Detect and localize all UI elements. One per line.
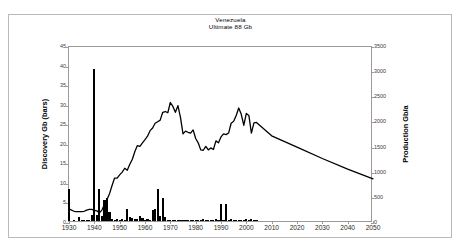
x-tick-label: 2030 (315, 225, 330, 232)
x-tick-label: 2010 (264, 225, 279, 232)
x-tick-label: 2000 (239, 225, 254, 232)
y-axis-right-title: Production Gb/a (399, 46, 411, 222)
chart-title-block: Venezuela Ultimate 88 Gb (0, 16, 461, 31)
x-tick-label: 1990 (214, 225, 229, 232)
x-tick-label: 1930 (62, 225, 77, 232)
plot-inner: 051015202530354045 050010001500200025003… (69, 47, 371, 221)
y-left-tick-label: 15 (60, 161, 66, 166)
production-curve (69, 47, 373, 223)
x-tick-label: 1940 (87, 225, 102, 232)
y-right-tick-label: 1000 (374, 170, 386, 175)
y-left-tick-label: 40 (60, 64, 66, 69)
y-left-tick-label: 25 (60, 122, 66, 127)
x-tick-label: 1960 (138, 225, 153, 232)
plot-area: 051015202530354045 050010001500200025003… (68, 46, 372, 222)
x-tick-label: 2050 (366, 225, 381, 232)
y-left-tick-label: 20 (60, 142, 66, 147)
y-right-tick-label: 2500 (374, 94, 386, 99)
y-left-tick-label: 10 (60, 181, 66, 186)
y-right-tick-label: 3500 (374, 44, 386, 49)
y-left-tick-label: 5 (63, 200, 66, 205)
y-left-tick-label: 30 (60, 103, 66, 108)
x-tick-label: 1980 (188, 225, 203, 232)
x-tick-label: 2040 (340, 225, 355, 232)
y-left-tick-label: 35 (60, 83, 66, 88)
chart-title: Venezuela (0, 16, 461, 23)
chart-subtitle: Ultimate 88 Gb (0, 23, 461, 30)
y-right-tick-label: 3000 (374, 69, 386, 74)
y-left-tick-label: 45 (60, 44, 66, 49)
x-tick-label: 1970 (163, 225, 178, 232)
y-axis-left-title: Discovery Gb (bars) (38, 46, 50, 222)
chart-figure: Venezuela Ultimate 88 Gb Discovery Gb (b… (0, 0, 461, 252)
y-right-tick-label: 2000 (374, 119, 386, 124)
x-tick-label: 1950 (112, 225, 127, 232)
y-right-tick-label: 1500 (374, 145, 386, 150)
y-right-tick-label: 500 (374, 195, 383, 200)
x-tick-label: 2020 (290, 225, 305, 232)
